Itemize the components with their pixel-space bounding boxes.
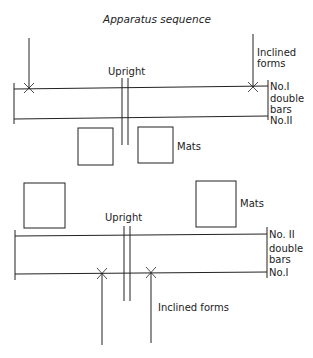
bottom-inclined-forms-label: Inclined forms — [158, 302, 229, 313]
top-bar-no2 — [14, 116, 268, 119]
top-bar-no2-label: No.II — [270, 115, 293, 126]
top-mats-label: Mats — [177, 141, 201, 152]
top-double-bars-label: double — [270, 93, 304, 104]
bottom-bar-no2 — [15, 234, 267, 236]
top-bar-no1 — [14, 86, 268, 89]
diagram-title: Apparatus sequence — [103, 14, 211, 25]
top-mat-left — [78, 128, 113, 165]
bottom-mat-right — [196, 181, 236, 227]
top-inclined-forms-label: Inclined — [257, 47, 296, 58]
bottom-mat-left — [24, 183, 65, 228]
top-double-bars-label-2: bars — [270, 104, 292, 115]
top-mat-right — [138, 127, 173, 163]
bottom-double-bars-label: double — [269, 243, 303, 254]
top-bar-no1-label: No.I — [270, 81, 290, 92]
bottom-bar-no1 — [15, 272, 267, 274]
bottom-bar-no1-label: No.I — [269, 267, 289, 278]
top-upright-label: Upright — [108, 66, 145, 77]
top-inclined-forms-label-2: forms — [257, 58, 286, 69]
bottom-upright-label: Upright — [105, 212, 142, 223]
bottom-double-bars-label-2: bars — [269, 254, 291, 265]
bottom-mats-label: Mats — [240, 198, 264, 209]
bottom-bar-no2-label: No. II — [269, 229, 295, 240]
